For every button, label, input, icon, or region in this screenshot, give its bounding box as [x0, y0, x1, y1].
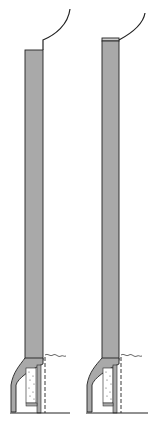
right-bracket-foot — [103, 403, 113, 406]
right-strip — [102, 41, 119, 360]
left-figure — [10, 9, 70, 413]
left-dotted-fill — [26, 368, 36, 403]
right-dotted-fill — [103, 368, 113, 403]
left-wavy-line — [45, 354, 66, 356]
left-strip — [25, 50, 43, 360]
right-top-curve — [119, 13, 145, 40]
right-wavy-line — [121, 354, 142, 356]
right-bracket-bar — [113, 365, 117, 413]
left-bracket-foot — [26, 403, 37, 406]
left-bracket-bar — [37, 365, 41, 413]
left-top-curve — [43, 9, 70, 50]
diagram-canvas — [0, 0, 160, 432]
right-figure — [86, 13, 148, 413]
